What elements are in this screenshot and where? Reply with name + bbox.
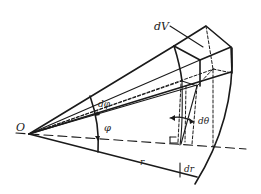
label-origin: O (16, 121, 25, 134)
label-phi: φ (104, 122, 111, 133)
label-dV: dV (154, 20, 170, 33)
label-dr: dr (184, 164, 195, 174)
right-angle-marker (170, 137, 178, 143)
spherical-volume-element-figure: dV dφ O φ dθ r dr (0, 0, 261, 194)
volume-element-box (174, 26, 232, 86)
dV-leader-line (170, 26, 203, 47)
dtheta-arrow (170, 115, 175, 121)
label-r: r (140, 157, 145, 167)
label-dtheta: dθ (198, 116, 210, 126)
phi-arrow-bottom (95, 136, 100, 141)
label-dphi: dφ (98, 99, 111, 109)
reference-axis (16, 133, 246, 149)
